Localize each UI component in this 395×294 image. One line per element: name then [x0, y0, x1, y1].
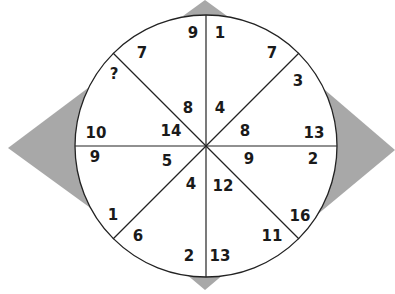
- number-label: 12: [213, 179, 234, 194]
- missing-number-label: ?: [110, 67, 119, 82]
- number-label: 4: [186, 177, 196, 192]
- number-label: 2: [308, 152, 318, 167]
- top-triangle: [183, 0, 227, 16]
- number-label: 16: [290, 209, 311, 224]
- number-label: 13: [210, 249, 231, 264]
- number-label: 3: [293, 74, 303, 89]
- number-label: 4: [215, 101, 225, 116]
- number-label: 5: [162, 154, 172, 169]
- number-label: 2: [184, 249, 194, 264]
- number-label: 8: [183, 101, 193, 116]
- number-label: 7: [137, 46, 147, 61]
- number-label: 9: [90, 150, 100, 165]
- number-label: 13: [304, 126, 325, 141]
- number-label: 10: [86, 126, 107, 141]
- number-wheel-puzzle: 9 1 7 7 ? 3 8 4 10 14 8 13 9 5 9 2 4 12 …: [0, 0, 395, 294]
- number-label: 6: [133, 229, 143, 244]
- number-label: 14: [161, 124, 182, 139]
- number-label: 11: [262, 229, 283, 244]
- number-label: 8: [240, 124, 250, 139]
- number-label: 7: [267, 46, 277, 61]
- number-label: 1: [108, 208, 118, 223]
- number-label: 9: [244, 152, 254, 167]
- number-label: 9: [188, 26, 198, 41]
- number-label: 1: [215, 26, 225, 41]
- wheel-diagram: [0, 0, 395, 294]
